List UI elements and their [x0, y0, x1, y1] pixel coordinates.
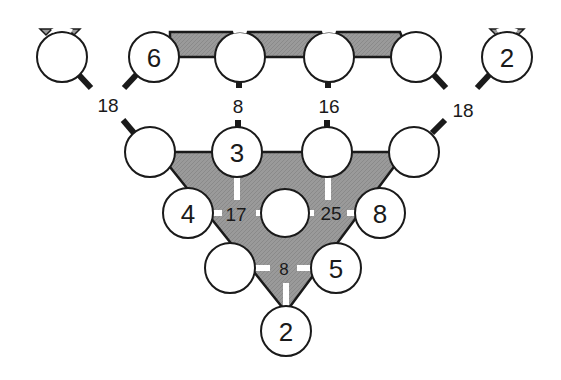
link-t6-s18: [477, 74, 490, 88]
node-c3[interactable]: 8: [355, 188, 405, 238]
link-t1-s18: [78, 74, 91, 88]
node-l2-value: 5: [329, 254, 343, 284]
node-c2[interactable]: [261, 189, 309, 237]
node-t4[interactable]: [304, 30, 354, 82]
node-t1[interactable]: [37, 29, 87, 82]
node-b1[interactable]: 2: [261, 306, 311, 356]
dark-links: [78, 74, 490, 133]
node-t5[interactable]: [391, 32, 441, 82]
node-t2[interactable]: 6: [129, 32, 179, 82]
node-t3[interactable]: [215, 30, 265, 82]
sum-16: 16: [318, 96, 339, 117]
node-m3[interactable]: [302, 127, 352, 177]
node-c1-value: 4: [181, 199, 195, 229]
link-t2-s18: [124, 74, 137, 88]
sum-left-18: 18: [97, 95, 118, 116]
link-m1-s18: [123, 120, 134, 133]
top-shaded-band: [170, 32, 410, 57]
node-m2-value: 3: [230, 138, 244, 168]
node-b1-value: 2: [279, 317, 293, 347]
triangle-sum-puzzle: 6 2 3: [0, 0, 561, 380]
sum-right-18: 18: [452, 100, 473, 121]
node-m2[interactable]: 3: [212, 127, 262, 177]
node-m4[interactable]: [389, 127, 439, 177]
link-m4-s18: [432, 120, 445, 133]
sum-25: 25: [320, 203, 341, 224]
sum-17: 17: [225, 204, 246, 225]
node-m1[interactable]: [125, 127, 175, 177]
node-t6-value: 2: [500, 43, 514, 73]
node-t2-value: 6: [147, 43, 161, 73]
sum-bottom-8: 8: [279, 260, 288, 279]
sum-top-8: 8: [233, 96, 244, 117]
node-c1[interactable]: 4: [163, 188, 213, 238]
node-l2[interactable]: 5: [311, 243, 361, 293]
node-l1[interactable]: [205, 243, 255, 293]
node-t6[interactable]: 2: [482, 29, 532, 82]
node-c3-value: 8: [373, 199, 387, 229]
nodes: 6 2 3: [37, 29, 532, 356]
link-t5-s18: [433, 74, 446, 88]
